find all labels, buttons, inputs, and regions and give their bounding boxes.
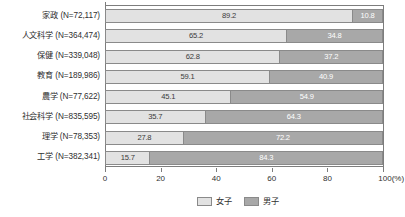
bar-value-label: 62.8 [186,53,200,61]
legend-item-male[interactable]: 男子 [244,197,279,206]
bar-segment-male: 54.9 [230,91,382,103]
legend-item-female[interactable]: 女子 [197,197,232,206]
x-axis-tick-labels: 020406080100(%) [0,174,405,186]
bar-row: 59.140.9 [105,70,383,84]
x-axis-tick-label: 60 [267,174,276,184]
x-axis-tick-label: 100(%) [378,174,404,184]
category-label: 教育 (N=189,986) [37,71,100,80]
bar-value-label: 64.3 [287,113,301,121]
legend-label-female: 女子 [216,197,232,206]
category-axis-labels: 家政 (N=72,117)人文科学 (N=364,474)保健 (N=339,0… [0,0,103,172]
plot-area: 89.210.865.234.862.837.259.140.945.154.9… [105,5,383,167]
bar-segment-male: 72.2 [183,132,382,144]
x-axis-tick [383,168,384,172]
bar-row: 65.234.8 [105,29,383,43]
category-label: 社会科学 (N=835,595) [22,112,100,121]
x-axis-tick-label: 40 [212,174,221,184]
bar-row: 45.154.9 [105,90,383,104]
bar-segment-female: 15.7 [106,152,149,164]
bar-segment-female: 45.1 [106,91,230,103]
bar-segment-female: 65.2 [106,30,286,42]
category-label: 理学 (N=78,353) [42,132,100,141]
bar-value-label: 37.2 [324,53,338,61]
x-axis-tick [105,168,106,172]
bar-row: 89.210.8 [105,9,383,23]
bar-value-label: 65.2 [189,32,203,40]
bar-segment-female: 62.8 [106,51,279,63]
bar-segment-female: 27.8 [106,132,183,144]
bar-segment-male: 10.8 [352,10,382,22]
bar-value-label: 15.7 [121,154,135,162]
stacked-bar: 27.872.2 [105,131,383,145]
category-label: 人文科学 (N=364,474) [22,31,100,40]
x-axis-tick-label: 80 [323,174,332,184]
bar-segment-female: 89.2 [106,10,352,22]
category-label: 農学 (N=77,622) [42,92,100,101]
bar-segment-female: 35.7 [106,111,205,123]
bar-value-label: 59.1 [181,73,195,81]
bar-value-label: 34.8 [327,32,341,40]
bar-segment-male: 40.9 [269,71,382,83]
stacked-bar: 15.784.3 [105,151,383,165]
bar-value-label: 27.8 [137,134,151,142]
bar-value-label: 89.2 [222,12,236,20]
chart-legend: 女子 男子 [197,195,279,207]
bar-value-label: 84.3 [259,154,273,162]
bar-value-label: 40.9 [319,73,333,81]
plot-right-border [383,5,384,168]
x-axis-tick [327,168,328,172]
x-axis-tick-label: 20 [156,174,165,184]
bar-row: 62.837.2 [105,50,383,64]
bar-segment-male: 37.2 [279,51,382,63]
legend-label-male: 男子 [263,197,279,206]
stacked-bar: 65.234.8 [105,29,383,43]
bar-row: 35.764.3 [105,110,383,124]
bar-row: 27.872.2 [105,131,383,145]
bar-segment-male: 84.3 [149,152,382,164]
bar-segment-male: 64.3 [205,111,382,123]
legend-swatch-male-icon [244,197,259,206]
x-axis-tick-label: 0 [103,174,107,184]
category-label: 工学 (N=382,341) [37,152,100,161]
stacked-bar: 59.140.9 [105,70,383,84]
bar-segment-male: 34.8 [286,30,382,42]
stacked-bar: 62.837.2 [105,50,383,64]
x-axis-tick [161,168,162,172]
x-axis-tick [216,168,217,172]
stacked-bar-chart: 家政 (N=72,117)人文科学 (N=364,474)保健 (N=339,0… [0,0,405,217]
x-axis-tick [272,168,273,172]
stacked-bar: 89.210.8 [105,9,383,23]
stacked-bar: 45.154.9 [105,90,383,104]
bar-value-label: 10.8 [361,12,375,20]
bar-value-label: 72.2 [276,134,290,142]
bar-row: 15.784.3 [105,151,383,165]
bar-value-label: 35.7 [148,113,162,121]
bar-value-label: 45.1 [161,93,175,101]
stacked-bar: 35.764.3 [105,110,383,124]
legend-swatch-female-icon [197,197,212,206]
category-label: 家政 (N=72,117) [42,11,100,20]
bar-segment-female: 59.1 [106,71,269,83]
bar-value-label: 54.9 [300,93,314,101]
category-label: 保健 (N=339,048) [37,51,100,60]
